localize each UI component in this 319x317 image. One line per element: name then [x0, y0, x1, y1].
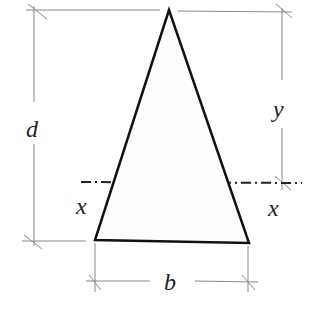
triangle-diagram: d y x x b [0, 0, 319, 317]
triangle-shape [95, 10, 249, 243]
label-y: y [271, 96, 284, 122]
label-x-left: x [75, 193, 87, 219]
label-d: d [26, 116, 39, 142]
label-x-right: x [267, 195, 279, 221]
label-b: b [164, 269, 176, 295]
